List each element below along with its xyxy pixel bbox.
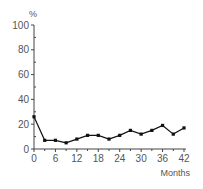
data-point bbox=[86, 134, 89, 137]
y-tick-label: 20 bbox=[18, 119, 30, 130]
x-tick-label: 30 bbox=[136, 153, 148, 164]
data-point bbox=[75, 137, 78, 140]
x-tick-label: 18 bbox=[93, 153, 105, 164]
axes bbox=[34, 25, 186, 149]
x-tick-label: 42 bbox=[178, 153, 190, 164]
data-point bbox=[65, 141, 68, 144]
data-point bbox=[43, 139, 46, 142]
y-tick-label: 60 bbox=[18, 69, 30, 80]
y-axis-label: % bbox=[29, 9, 37, 19]
line-chart: % Months 02040608010006121824303642 bbox=[0, 0, 203, 189]
y-tick-label: 40 bbox=[18, 94, 30, 105]
data-point bbox=[150, 129, 153, 132]
x-axis-label: Months bbox=[160, 168, 190, 178]
data-point bbox=[54, 139, 57, 142]
series bbox=[32, 115, 185, 144]
data-point bbox=[161, 124, 164, 127]
x-tick-label: 0 bbox=[31, 153, 37, 164]
y-tick-label: 0 bbox=[23, 144, 29, 155]
x-tick-label: 24 bbox=[114, 153, 126, 164]
data-point bbox=[97, 134, 100, 137]
ticks: 02040608010006121824303642 bbox=[12, 20, 190, 165]
data-point bbox=[140, 133, 143, 136]
y-tick-label: 80 bbox=[18, 44, 30, 55]
y-tick-label: 100 bbox=[12, 20, 29, 31]
data-point bbox=[172, 133, 175, 136]
x-tick-label: 6 bbox=[53, 153, 59, 164]
data-point bbox=[182, 126, 185, 129]
data-point bbox=[32, 115, 35, 118]
data-point bbox=[107, 137, 110, 140]
x-tick-label: 36 bbox=[157, 153, 169, 164]
data-point bbox=[118, 134, 121, 137]
data-point bbox=[129, 129, 132, 132]
x-tick-label: 12 bbox=[71, 153, 83, 164]
